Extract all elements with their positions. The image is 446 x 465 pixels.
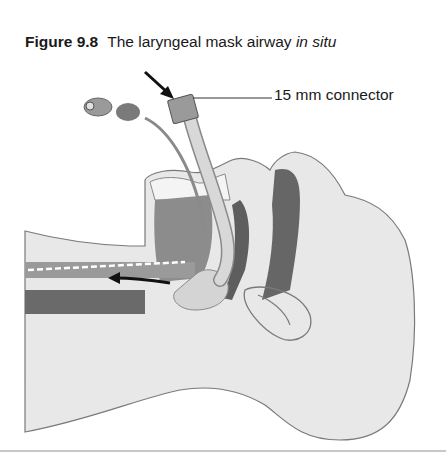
page-divider <box>0 450 446 452</box>
pilot-balloon <box>116 103 140 121</box>
connector-label: 15 mm connector <box>274 86 394 104</box>
laryngeal-mask-airway-illustration <box>0 0 446 465</box>
oesophagus <box>25 290 145 314</box>
